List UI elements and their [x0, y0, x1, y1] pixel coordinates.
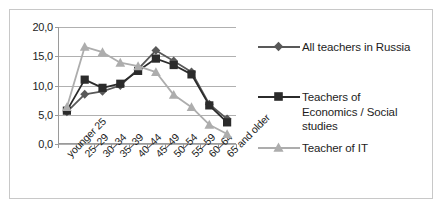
square-marker — [205, 101, 213, 109]
legend-item-label: Teachers of Economics / Social studies — [302, 90, 397, 134]
triangle-marker — [273, 142, 283, 151]
plot-area: 0,05,010,015,020,0 younger 2525–2930–343… — [58, 27, 236, 144]
square-marker — [187, 70, 195, 78]
triangle-marker — [187, 102, 197, 111]
legend-glyph — [272, 90, 285, 103]
legend-item-2[interactable]: Teachers of Economics / Social studies — [258, 90, 397, 134]
series-plot — [58, 27, 236, 144]
triangle-marker-icon — [258, 141, 300, 154]
square-marker — [116, 80, 124, 88]
y-axis-tick-label: 0,0 — [38, 138, 53, 150]
square-marker — [223, 118, 231, 126]
triangle-marker — [115, 58, 125, 67]
triangle-marker — [80, 42, 90, 51]
square-marker — [170, 61, 178, 69]
y-axis-tick-label: 20,0 — [32, 21, 53, 33]
chart-frame: 0,05,010,015,020,0 younger 2525–2930–343… — [9, 9, 433, 199]
diamond-marker — [274, 42, 283, 51]
square-marker — [152, 54, 160, 62]
legend-glyph — [272, 141, 285, 154]
square-marker — [274, 92, 283, 101]
series-2 — [63, 54, 231, 126]
series-3 — [62, 42, 232, 138]
square-marker — [81, 76, 89, 84]
legend-item-label: Teacher of IT — [302, 141, 368, 156]
series-1 — [62, 46, 231, 123]
y-axis-tick-label: 10,0 — [32, 80, 53, 92]
y-axis-tick-label: 5,0 — [38, 109, 53, 121]
legend-item-1[interactable]: All teachers in Russia — [258, 40, 410, 55]
legend-glyph — [272, 40, 285, 53]
square-marker-icon — [258, 90, 300, 103]
y-axis-tick-label: 15,0 — [32, 50, 53, 62]
legend-item-3[interactable]: Teacher of IT — [258, 141, 368, 156]
x-axis-tick-mark — [58, 144, 59, 148]
legend-item-label: All teachers in Russia — [302, 40, 410, 55]
square-marker — [98, 84, 106, 92]
series-line — [67, 50, 227, 118]
series-line — [67, 59, 227, 123]
triangle-marker — [222, 129, 232, 138]
diamond-marker-icon — [258, 40, 300, 53]
